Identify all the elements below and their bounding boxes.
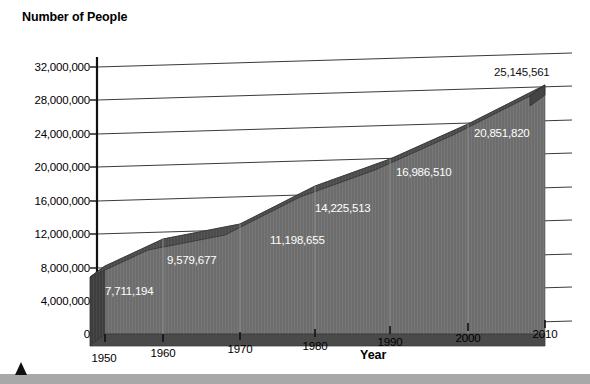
- y-tick-label: 28,000,000: [4, 94, 90, 106]
- x-axis-title: Year: [360, 348, 386, 362]
- chart-figure: Number of People: [0, 0, 590, 384]
- x-tick-label-2000: 2000: [445, 332, 491, 344]
- y-tick-label: 12,000,000: [4, 228, 90, 240]
- x-tick-label-1960: 1960: [140, 347, 186, 359]
- y-tick-label: 0: [4, 328, 90, 340]
- x-tick-label-1980: 1980: [292, 340, 338, 352]
- x-tick-label-2010: 2010: [522, 328, 568, 340]
- data-label-1980: 14,225,513: [315, 202, 371, 214]
- y-tick-label: 24,000,000: [4, 128, 90, 140]
- y-tick-label: 16,000,000: [4, 195, 90, 207]
- data-label-1950: 7,711,194: [105, 285, 154, 297]
- y-tick-label: 4,000,000: [4, 295, 90, 307]
- triangle-up-icon: [15, 362, 27, 375]
- y-tick-label: 32,000,000: [4, 61, 90, 73]
- chart-plot-area: [0, 0, 590, 384]
- x-tick-label-1970: 1970: [217, 343, 263, 355]
- footer-band: [0, 374, 590, 384]
- x-tick-label-1950: 1950: [81, 352, 127, 364]
- data-label-2010: 25,145,561: [494, 66, 550, 78]
- data-label-1990: 16,986,510: [396, 166, 452, 178]
- area-left-side-face: [90, 266, 105, 346]
- x-tick-label-1990: 1990: [367, 336, 413, 348]
- y-tick-label: 8,000,000: [4, 262, 90, 274]
- data-label-1960: 9,579,677: [167, 254, 216, 266]
- y-tick-label: 20,000,000: [4, 161, 90, 173]
- data-label-2000: 20,851,820: [474, 127, 530, 139]
- data-label-1970: 11,198,655: [270, 234, 325, 246]
